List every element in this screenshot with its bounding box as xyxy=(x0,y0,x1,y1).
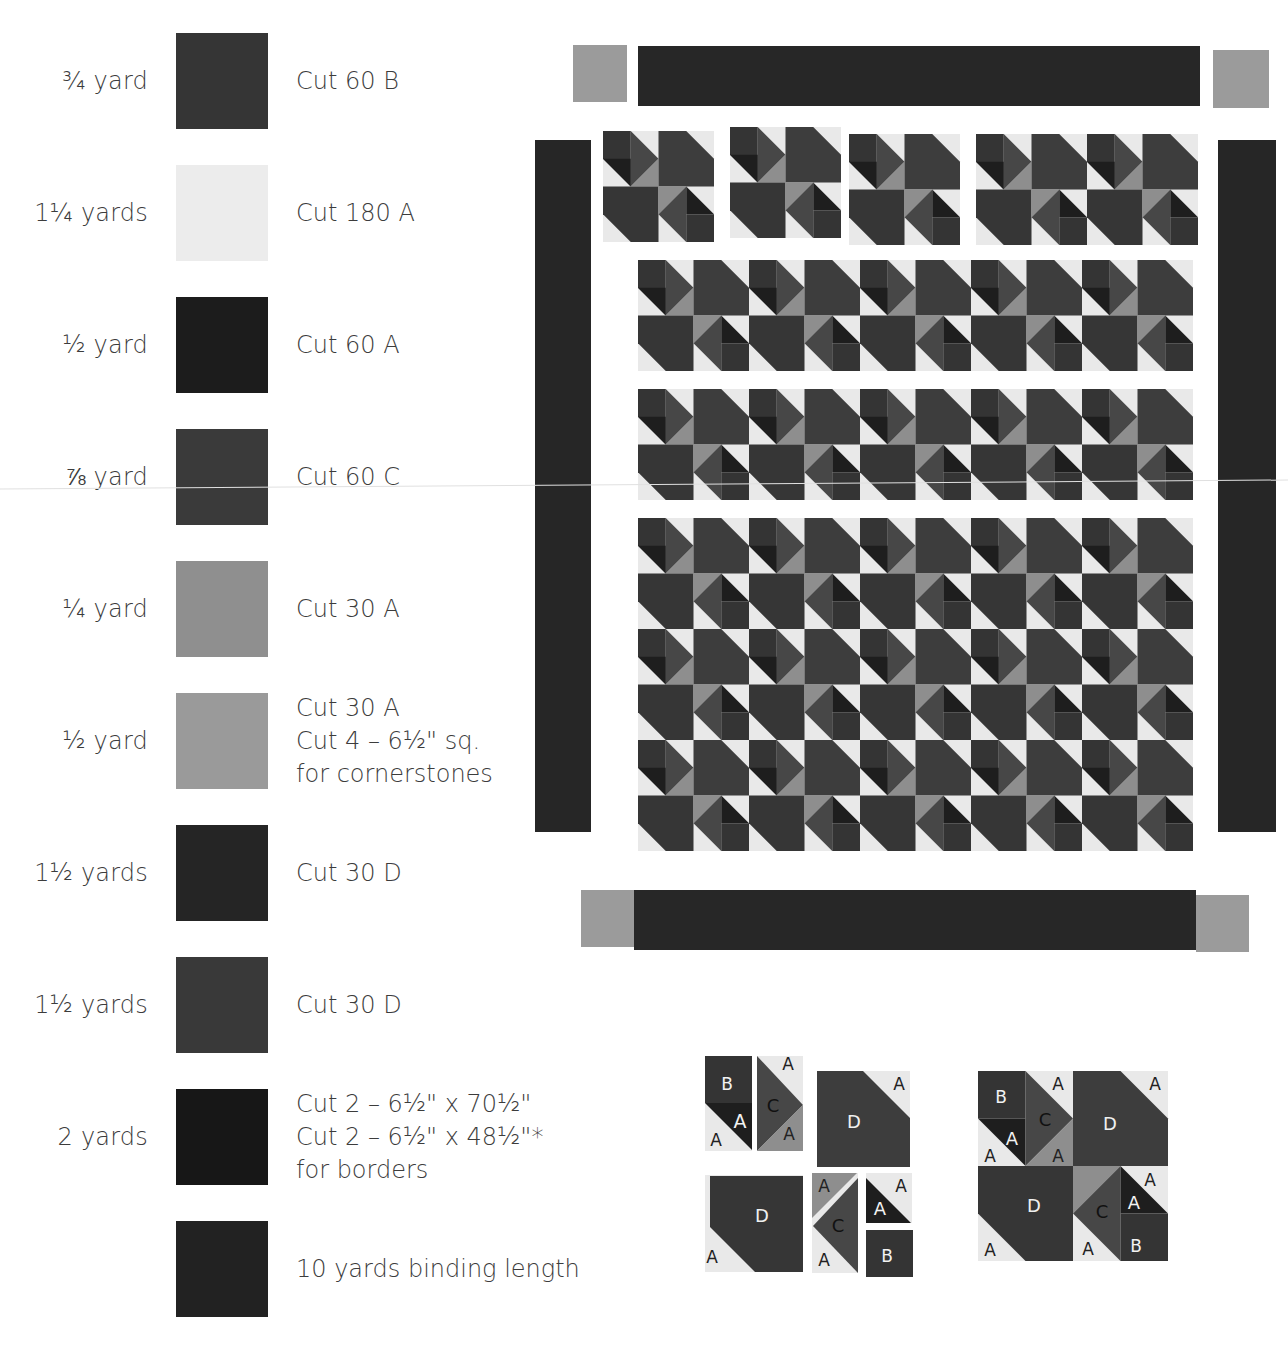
piece-label: A xyxy=(818,1250,830,1270)
piece-label: D xyxy=(755,1205,769,1226)
fabric-quantity: 1½ yards xyxy=(34,991,148,1019)
cornerstone-bottom-right xyxy=(1196,895,1249,952)
fabric-swatch xyxy=(176,957,268,1053)
quilt-block xyxy=(976,134,1087,245)
piece-label: B xyxy=(721,1074,733,1094)
piece-label: A xyxy=(706,1247,718,1267)
piece-label: D xyxy=(1103,1113,1117,1134)
quilt-block xyxy=(638,629,749,740)
cut-line: Cut 2 – 6½" x 48½"* xyxy=(296,1121,543,1154)
quilt-block xyxy=(1082,629,1193,740)
quilt-block xyxy=(849,134,960,245)
piece-label: C xyxy=(1039,1109,1052,1130)
quilt-block xyxy=(730,127,841,238)
quilt-blocks xyxy=(0,0,1288,900)
cut-line: Cut 2 – 6½" x 70½" xyxy=(296,1088,543,1121)
cutting-instructions: Cut 30 D xyxy=(296,989,402,1022)
cut-line: 10 yards binding length xyxy=(296,1253,580,1286)
piece-label: A xyxy=(984,1146,996,1166)
quilt-block xyxy=(971,629,1082,740)
quilt-block xyxy=(1087,134,1198,245)
quilt-block xyxy=(860,629,971,740)
quilt-block xyxy=(971,389,1082,500)
piece-label: A xyxy=(1052,1146,1064,1166)
piece-label: C xyxy=(832,1215,845,1236)
fabric-quantity: 2 yards xyxy=(58,1123,148,1151)
quilt-block xyxy=(971,740,1082,851)
cut-line: for borders xyxy=(296,1154,543,1187)
piece-label: A xyxy=(895,1176,907,1196)
quilt-block xyxy=(971,260,1082,371)
quilt-block xyxy=(638,740,749,851)
quilt-block xyxy=(971,518,1082,629)
quilt-block xyxy=(638,260,749,371)
piece-label: B xyxy=(881,1246,893,1266)
quilt-block xyxy=(1082,260,1193,371)
piece-label: A xyxy=(1082,1239,1094,1259)
piece-label: A xyxy=(710,1130,722,1150)
piece-label: A xyxy=(1144,1170,1156,1190)
cut-line: Cut 30 D xyxy=(296,989,402,1022)
piece-label: D xyxy=(1027,1195,1041,1216)
piece-label: A xyxy=(1052,1074,1064,1094)
quilt-block xyxy=(860,740,971,851)
quilt-block xyxy=(1082,740,1193,851)
piece-label: A xyxy=(1149,1074,1161,1094)
piece-label: B xyxy=(995,1087,1007,1107)
block-exploded-diagram: BAAACADADAACAAAB xyxy=(700,1050,930,1290)
fabric-swatch xyxy=(176,1089,268,1185)
quilt-block xyxy=(749,740,860,851)
legend-row: 2 yardsCut 2 – 6½" x 70½"Cut 2 – 6½" x 4… xyxy=(0,1089,560,1185)
cutting-instructions: Cut 2 – 6½" x 70½"Cut 2 – 6½" x 48½"*for… xyxy=(296,1088,543,1187)
piece-label: D xyxy=(847,1111,861,1132)
piece-label: A xyxy=(818,1176,830,1196)
piece-label: A xyxy=(874,1198,887,1219)
quilt-block xyxy=(749,260,860,371)
quilt-block xyxy=(749,629,860,740)
quilt-block xyxy=(860,260,971,371)
cutting-instructions: 10 yards binding length xyxy=(296,1253,580,1286)
piece-label: A xyxy=(783,1124,795,1144)
quilt-block xyxy=(749,518,860,629)
quilt-block xyxy=(1082,518,1193,629)
piece-label: A xyxy=(984,1240,996,1260)
piece-label: C xyxy=(767,1095,780,1116)
piece-label: A xyxy=(1128,1192,1141,1213)
quilt-block xyxy=(603,131,714,242)
block-assembled-diagram: BAACAADADACAAAB xyxy=(970,1060,1170,1270)
piece-label: A xyxy=(893,1074,905,1094)
piece-label: A xyxy=(734,1110,747,1132)
legend-row: 1½ yardsCut 30 D xyxy=(0,957,560,1053)
piece-label: C xyxy=(1096,1201,1109,1222)
piece-label: B xyxy=(1130,1236,1142,1256)
piece-label: A xyxy=(782,1054,794,1074)
quilt-block xyxy=(1082,389,1193,500)
quilt-block xyxy=(638,518,749,629)
legend-row: 10 yards binding length xyxy=(0,1221,560,1317)
quilt-block xyxy=(860,518,971,629)
fabric-swatch xyxy=(176,1221,268,1317)
piece-label: A xyxy=(1006,1128,1019,1149)
